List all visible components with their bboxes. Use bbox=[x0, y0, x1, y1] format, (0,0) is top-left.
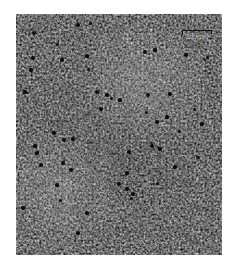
micrograph-grain-texture bbox=[16, 14, 222, 255]
micrograph-panel: 0.1 µm bbox=[16, 14, 222, 255]
micrograph-coarse-mottle bbox=[16, 14, 222, 255]
figure-root: 0.1 µm bbox=[0, 0, 236, 271]
